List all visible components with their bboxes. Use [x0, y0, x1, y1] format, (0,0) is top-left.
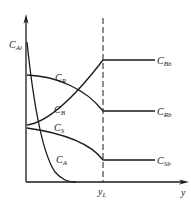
curve-ca	[27, 42, 76, 182]
label-yl: yL	[97, 186, 106, 199]
label-csb: CSb	[157, 155, 171, 168]
label-ca: CA	[56, 154, 68, 167]
concentration-profile-diagram: CAi CR CB CS CA CBb CRb CSb yL y	[0, 0, 191, 206]
label-cb: CB	[54, 104, 66, 117]
curve-cb	[27, 60, 103, 125]
curve-cs	[27, 128, 103, 160]
y-axis-label: CAi	[9, 39, 22, 52]
x-axis-label: y	[180, 187, 186, 198]
label-cr: CR	[55, 72, 67, 85]
label-cbb: CBb	[157, 55, 172, 68]
label-crb: CRb	[157, 106, 172, 119]
